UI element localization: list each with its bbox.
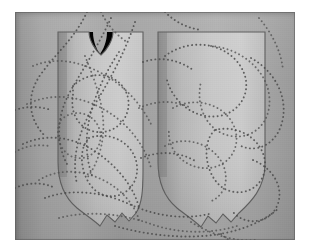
left-shield-body [58, 32, 143, 226]
figure-canvas: .dot { fill: none; stroke: #4a4a4a; stro… [0, 0, 313, 252]
shield-artwork: .dot { fill: none; stroke: #4a4a4a; stro… [15, 12, 295, 240]
photographic-plate: .dot { fill: none; stroke: #4a4a4a; stro… [15, 12, 295, 240]
